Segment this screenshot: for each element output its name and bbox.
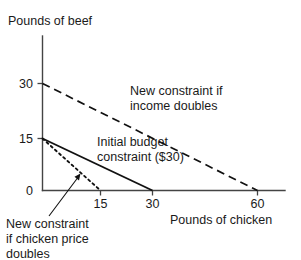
annotation-chicken-price-line2: if chicken price — [6, 232, 89, 246]
annotation-income-doubles-line2: income doubles — [130, 99, 218, 113]
y-axis-title: Pounds of beef — [8, 14, 93, 28]
annotation-initial-budget-line1: Initial budget — [97, 135, 168, 149]
x-tick-label-15: 15 — [94, 197, 108, 211]
x-tick-label-60: 60 — [251, 197, 265, 211]
chart-svg: Pounds of beef 30 15 0 15 30 60 New cons… — [0, 0, 301, 260]
annotation-arrow-head — [75, 174, 81, 181]
budget-constraint-chart: Pounds of beef 30 15 0 15 30 60 New cons… — [0, 0, 301, 260]
annotation-initial-budget-line2: constraint ($30) — [97, 150, 184, 164]
series-line-chicken-price-doubles — [43, 139, 101, 191]
annotation-income-doubles-line1: New constraint if — [130, 84, 223, 98]
annotation-chicken-price-line3: doubles — [6, 247, 50, 260]
y-tick-label-30: 30 — [19, 77, 33, 91]
annotation-arrow-line — [49, 176, 79, 216]
x-axis-title: Pounds of chicken — [170, 213, 272, 227]
x-tick-label-30: 30 — [146, 197, 160, 211]
annotation-chicken-price-line1: New constraint — [6, 217, 89, 231]
y-tick-label-0: 0 — [26, 184, 33, 198]
y-tick-label-15: 15 — [19, 132, 33, 146]
